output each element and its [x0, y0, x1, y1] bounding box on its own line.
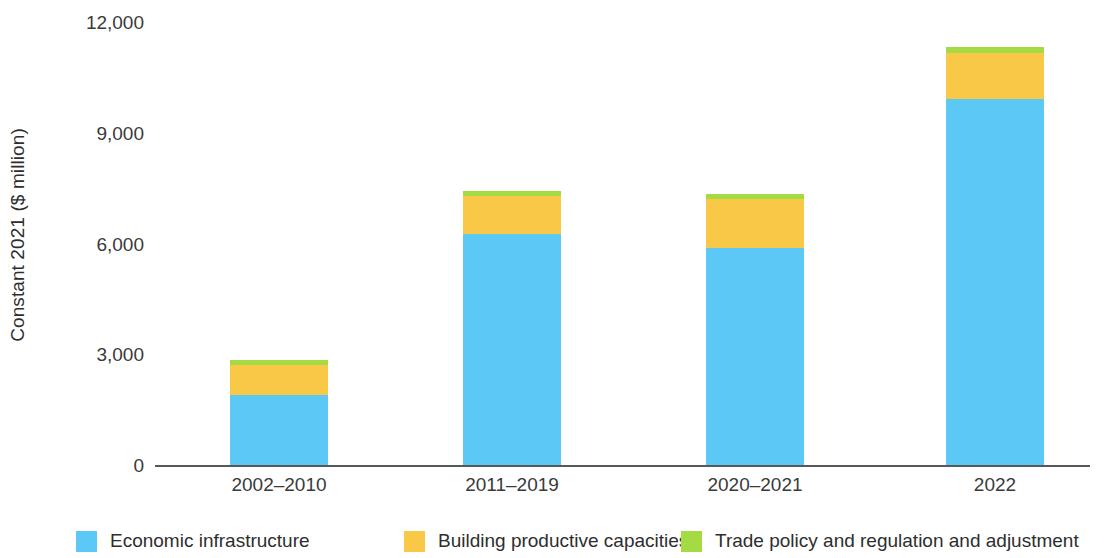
bar-segment — [946, 53, 1044, 99]
legend-color-swatch-icon — [76, 531, 97, 552]
bar-segment — [463, 234, 561, 465]
chart-legend: Economic infrastructureBuilding producti… — [0, 528, 1109, 558]
legend-color-swatch-icon — [681, 531, 702, 552]
x-axis-tick-label: 2011–2019 — [412, 474, 612, 496]
legend-item-label: Building productive capacities — [438, 528, 688, 554]
x-axis-tick-label: 2020–2021 — [655, 474, 855, 496]
bar-group — [463, 191, 561, 465]
legend-item-label: Economic infrastructure — [110, 528, 310, 554]
y-axis-title: Constant 2021 ($ million) — [0, 0, 36, 470]
bar-segment — [706, 248, 804, 465]
legend-color-swatch-icon — [404, 531, 425, 552]
bar-segment — [463, 196, 561, 234]
bar-group — [230, 360, 328, 465]
y-axis-tick-labels: 12,0009,0006,0003,0000 — [40, 0, 144, 480]
bar-group — [946, 47, 1044, 465]
stacked-bar-chart: Constant 2021 ($ million) 12,0009,0006,0… — [0, 0, 1109, 558]
legend-item-label: Trade policy and regulation and adjustme… — [715, 528, 1079, 554]
bar-segment — [946, 99, 1044, 465]
y-axis-tick-label: 0 — [40, 455, 144, 477]
x-axis-line — [155, 465, 1090, 467]
y-axis-tick-label: 9,000 — [40, 123, 144, 145]
x-axis-tick-label: 2002–2010 — [179, 474, 379, 496]
plot-area — [155, 0, 1090, 466]
legend-item[interactable]: Trade policy and regulation and adjustme… — [681, 528, 1079, 554]
bar-group — [706, 194, 804, 465]
x-axis-tick-labels: 2002–20102011–20192020–20212022 — [155, 474, 1090, 506]
bar-segment — [706, 199, 804, 248]
y-axis-tick-label: 12,000 — [40, 12, 144, 34]
y-axis-tick-label: 3,000 — [40, 344, 144, 366]
legend-item[interactable]: Economic infrastructure — [76, 528, 310, 554]
legend-item[interactable]: Building productive capacities — [404, 528, 688, 554]
bar-segment — [230, 395, 328, 465]
x-axis-tick-label: 2022 — [895, 474, 1095, 496]
y-axis-tick-label: 6,000 — [40, 234, 144, 256]
y-axis-title-text: Constant 2021 ($ million) — [7, 128, 29, 342]
bar-segment — [230, 365, 328, 395]
